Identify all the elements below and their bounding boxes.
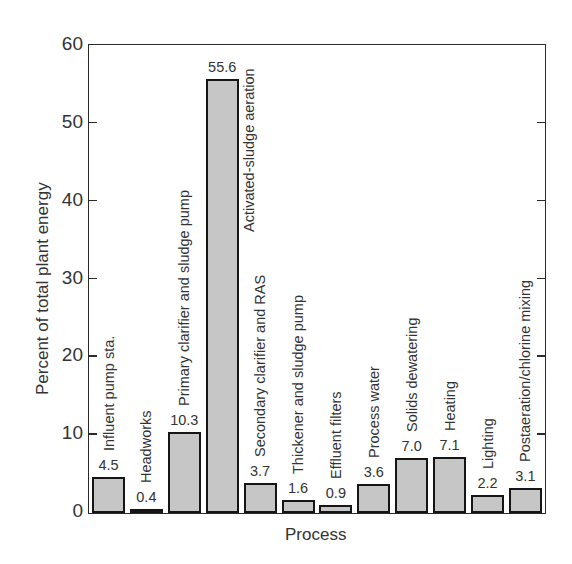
y-tick-right	[537, 433, 545, 435]
bar-value-label: 3.1	[502, 468, 548, 484]
bar-value-label: 55.6	[199, 59, 245, 75]
y-tick-label: 10	[43, 423, 83, 443]
category-label: Thickener and sludge pump	[290, 295, 306, 474]
category-label: Secondary clarifier and RAS	[252, 275, 268, 457]
bar-value-label: 3.6	[351, 464, 397, 480]
y-tick-left	[89, 200, 97, 202]
bar-value-label: 0.9	[313, 485, 359, 501]
category-label: Postaeration/chlorine mixing	[517, 280, 533, 462]
bar	[509, 488, 542, 513]
bar-value-label: 4.5	[86, 457, 132, 473]
y-tick-right	[537, 122, 545, 124]
bar	[206, 79, 239, 513]
y-tick-right	[537, 278, 545, 280]
y-tick-right	[537, 355, 545, 357]
bar-value-label: 7.1	[427, 437, 473, 453]
bar	[168, 432, 201, 513]
bar-value-label: 3.7	[237, 463, 283, 479]
y-tick-left	[89, 355, 97, 357]
bar	[319, 505, 352, 513]
category-label: Activated-sludge aeration	[241, 68, 257, 232]
bar	[395, 458, 428, 513]
y-tick-label: 60	[43, 34, 83, 54]
bar-value-label: 10.3	[161, 412, 207, 428]
bar	[244, 483, 277, 513]
bar-value-label: 0.4	[123, 489, 169, 505]
plot-area	[88, 44, 546, 514]
category-label: Lighting	[480, 418, 496, 469]
y-tick-right	[537, 200, 545, 202]
x-axis-title: Process	[285, 526, 346, 544]
category-label: Primary clarifier and sludge pump	[176, 190, 192, 406]
bar-chart: 0102030405060 4.5Influent pump sta.0.4He…	[0, 0, 572, 564]
y-tick-left	[89, 122, 97, 124]
bar	[357, 484, 390, 513]
category-label: Headworks	[138, 410, 154, 483]
y-tick-left	[89, 433, 97, 435]
category-label: Heating	[442, 381, 458, 431]
category-label: Effluent filters	[328, 391, 344, 479]
category-label: Process water	[366, 366, 382, 458]
bar	[471, 495, 504, 513]
bar	[92, 477, 125, 513]
y-tick-label: 0	[43, 501, 83, 521]
category-label: Solids dewatering	[404, 317, 420, 431]
bar	[130, 509, 163, 513]
y-tick-left	[89, 278, 97, 280]
y-tick-label: 50	[43, 112, 83, 132]
y-axis-title: Percent of total plant energy	[34, 182, 52, 395]
bar	[433, 457, 466, 513]
category-label: Influent pump sta.	[101, 336, 117, 451]
bar	[282, 500, 315, 513]
